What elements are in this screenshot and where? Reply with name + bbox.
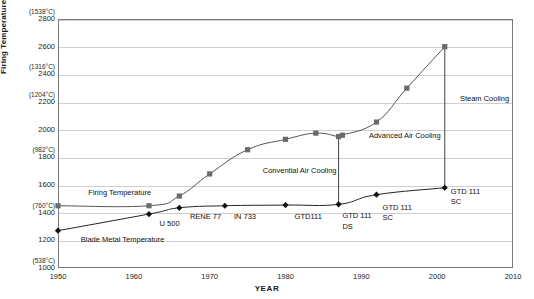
grid-line-horizontal [59,186,512,187]
y-axis-tick-label: 2000 [13,126,55,134]
grid-line-horizontal [59,213,512,214]
x-axis-tick-label: 1980 [266,272,306,281]
data-point-label: DS [342,222,352,231]
grid-line-horizontal [59,75,512,76]
x-axis-tick-label: 1960 [114,272,154,281]
y-axis-tick-label: 1400 [13,209,55,217]
y-axis-celsius-label: (538°C) [3,257,55,264]
data-point-label: GTD 111 [383,203,412,212]
y-axis-tick-label: 2800 [13,15,55,23]
region-label: Convential Air Cooling [263,166,337,175]
y-axis-celsius-label: (1316°C) [3,63,55,70]
series-label: Firing Temperature [88,188,151,197]
y-axis-celsius-label: (760°C) [3,202,55,209]
data-point-label: U 500 [160,219,180,228]
x-axis-tick-label: 2010 [493,272,533,281]
y-axis-tick-label: 1800 [13,153,55,161]
data-point-label: GTD 111 [342,211,371,220]
x-axis-title: YEAR [0,284,534,293]
x-axis-tick-label: 2000 [417,272,457,281]
data-point-label: RENE 77 [190,212,221,221]
x-axis-tick-label: 1950 [38,272,78,281]
data-point-label: GTD111 [295,212,322,221]
grid-line-horizontal [59,103,512,104]
y-axis-celsius-label: (1538°C) [3,8,55,15]
y-axis-tick-label: 2200 [13,98,55,106]
y-axis-tick-label: 2600 [13,43,55,51]
y-axis-tick-label: 1200 [13,236,55,244]
y-axis-celsius-label: (1204°C) [3,91,55,98]
grid-lines [59,20,512,267]
grid-line-horizontal [59,158,512,159]
grid-line-horizontal [59,47,512,48]
y-axis-celsius-label: (982°C) [3,146,55,153]
data-point-label: IN 733 [234,212,256,221]
grid-line-horizontal [59,20,512,21]
region-label: Steam Cooling [460,94,509,103]
x-axis-tick-label: 1970 [190,272,230,281]
y-axis-tick-label: 1000 [13,264,55,272]
y-axis-tick-label: 1600 [13,181,55,189]
data-point-label: GTD 111 [451,187,480,196]
grid-line-horizontal [59,130,512,131]
plot-area [58,19,513,268]
data-point-label: SC [383,213,393,222]
x-axis-tick-label: 1990 [341,272,381,281]
chart-figure: Firing Temperature °F (°C) YEAR 10001200… [0,0,534,299]
series-label: Blade Metal Temperature [81,235,165,244]
y-axis-tick-label: 2400 [13,70,55,78]
data-point-label: SC [451,197,461,206]
region-label: Advanced Air Cooling [369,131,441,140]
